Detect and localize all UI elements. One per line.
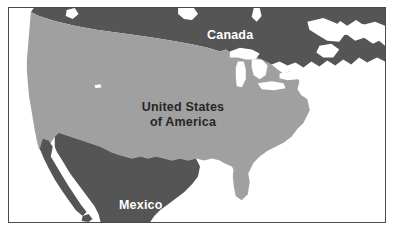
north-america-map	[9, 8, 385, 222]
map-frame-border: Canada United States of America Mexico	[8, 7, 386, 223]
map-figure: Canada United States of America Mexico	[0, 0, 394, 235]
